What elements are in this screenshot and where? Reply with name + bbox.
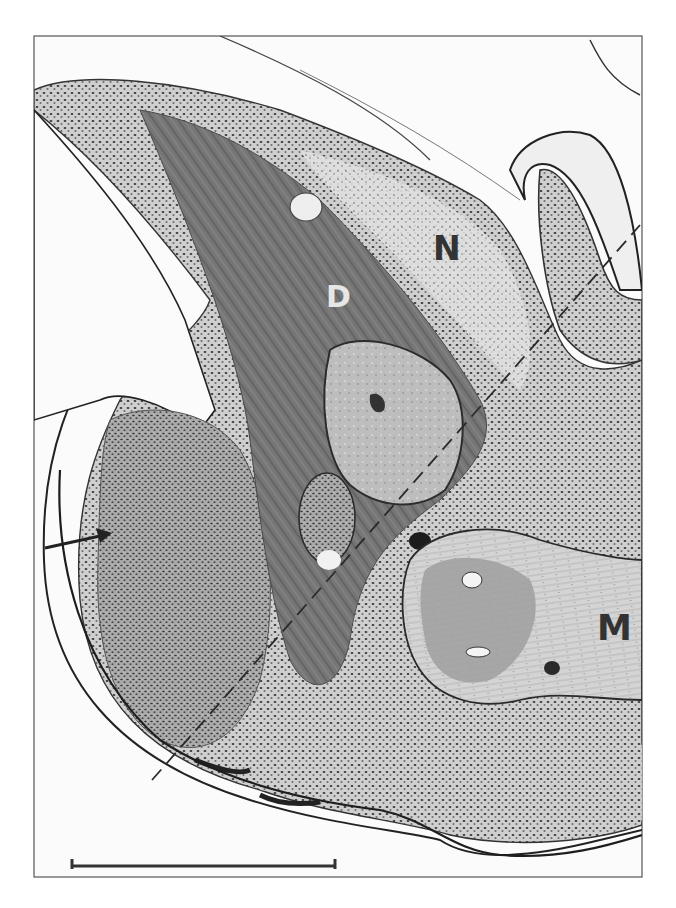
- label-D: D: [326, 279, 351, 314]
- micrograph-figure: N D M: [0, 0, 676, 908]
- label-M: M: [597, 608, 632, 648]
- small-vessel: [290, 193, 322, 221]
- bone-lumen: [462, 572, 482, 588]
- small-oval-structure: [299, 473, 355, 563]
- dark-spot: [544, 661, 560, 675]
- left-lobe: [98, 410, 271, 748]
- bone-lumen: [466, 647, 490, 657]
- small-oval-lumen: [317, 550, 341, 570]
- label-N: N: [433, 229, 461, 268]
